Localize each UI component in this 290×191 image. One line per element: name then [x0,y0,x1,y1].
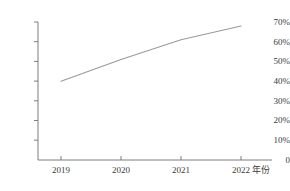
y-tick-label-10: 10% [258,135,290,145]
y-tick-label-40: 40% [258,76,290,86]
x-axis-title: 年份 [252,165,270,175]
x-tick-label-2019: 2019 [41,165,81,175]
y-tick-label-0: 0 [258,155,290,165]
y-tick-label-20: 20% [258,115,290,125]
y-tick-label-30: 30% [258,96,290,106]
y-axis-ticks [34,22,38,140]
y-tick-label-70: 70% [258,17,290,27]
line-chart: 70% 60% 50% 40% 30% 20% 10% 0 2019 2020 … [0,0,290,191]
x-tick-label-2020: 2020 [101,165,141,175]
chart-plot-area [0,0,290,191]
x-axis-ticks [61,156,241,160]
x-tick-label-2021: 2021 [161,165,201,175]
y-tick-label-50: 50% [258,56,290,66]
data-series-line [61,26,241,81]
y-tick-label-60: 60% [258,37,290,47]
